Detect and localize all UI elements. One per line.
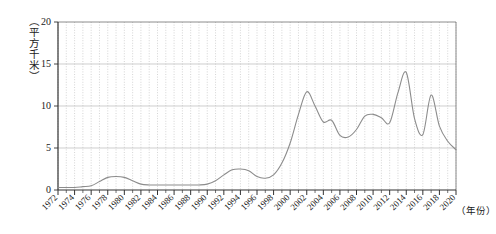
line-chart-plot: 05101520 1972197419761978198019821984198… <box>0 0 496 234</box>
x-axis-tick-label: 1992 <box>205 192 225 212</box>
x-axis-tick-label: 2010 <box>355 192 375 212</box>
x-axis-tick-label: 2008 <box>338 192 358 212</box>
x-axis-tick-label: 1988 <box>172 192 192 212</box>
x-axis-tick-label: 1980 <box>106 192 126 212</box>
x-axis-tick-label: 1978 <box>89 192 109 212</box>
x-axis-tick-label: 2000 <box>272 192 292 212</box>
x-axis-tick-label: 2004 <box>305 192 325 212</box>
x-axis-tick-label: 2018 <box>421 192 441 212</box>
x-axis-tick-label: 1974 <box>56 192 76 212</box>
x-axis-tick-label: 1972 <box>40 192 60 212</box>
y-axis-tick-label: 20 <box>41 16 51 27</box>
y-axis-tick-label: 5 <box>46 142 51 153</box>
x-axis-tick-label: 2016 <box>404 192 424 212</box>
x-axis-tick-label: 1976 <box>73 192 93 212</box>
x-axis-tick-label: 1990 <box>189 192 209 212</box>
x-axis-tick-label: 1998 <box>255 192 275 212</box>
x-axis-tick-label: 1984 <box>139 192 159 212</box>
y-axis-tick-labels-group: 05101520 <box>41 16 51 195</box>
x-axis-tick-label: 1996 <box>239 192 259 212</box>
x-axis-tick-label: 2012 <box>371 192 391 212</box>
grid-horizontal-group <box>58 64 456 148</box>
chart-container: （平方千米） （年份） 05101520 1972197419761978198… <box>0 0 496 234</box>
y-axis-tick-label: 15 <box>41 58 51 69</box>
x-axis-tick-labels-group: 1972197419761978198019821984198619881990… <box>40 192 458 212</box>
data-series-group <box>58 72 456 188</box>
x-axis-tick-label: 1986 <box>156 192 176 212</box>
x-axis-tick-label: 2014 <box>388 192 408 212</box>
x-axis-tick-label: 1982 <box>123 192 143 212</box>
x-axis-tick-label: 2002 <box>288 192 308 212</box>
x-axis-tick-label: 1994 <box>222 192 242 212</box>
y-axis-tick-label: 10 <box>41 100 51 111</box>
x-axis-tick-label: 2006 <box>322 192 342 212</box>
data-line-面积 <box>58 72 456 188</box>
x-axis-tick-label: 2020 <box>438 192 458 212</box>
